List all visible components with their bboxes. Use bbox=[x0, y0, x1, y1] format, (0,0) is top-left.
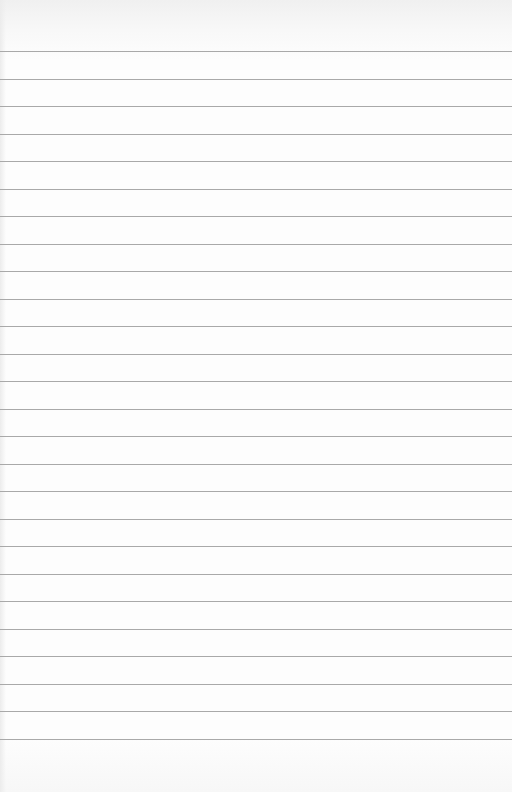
ruled-line bbox=[0, 491, 512, 492]
ruled-line bbox=[0, 601, 512, 602]
ruled-line bbox=[0, 134, 512, 135]
ruled-line bbox=[0, 271, 512, 272]
ruled-line bbox=[0, 106, 512, 107]
paper-edge-shadow bbox=[0, 0, 6, 792]
ruled-line bbox=[0, 519, 512, 520]
ruled-line bbox=[0, 409, 512, 410]
ruled-line bbox=[0, 189, 512, 190]
ruled-paper-sheet bbox=[0, 0, 512, 792]
ruled-line bbox=[0, 244, 512, 245]
ruled-line bbox=[0, 79, 512, 80]
ruled-line bbox=[0, 216, 512, 217]
ruled-line bbox=[0, 299, 512, 300]
ruled-line bbox=[0, 381, 512, 382]
ruled-line bbox=[0, 354, 512, 355]
ruled-line bbox=[0, 574, 512, 575]
ruled-line bbox=[0, 326, 512, 327]
ruled-line bbox=[0, 51, 512, 52]
ruled-line bbox=[0, 656, 512, 657]
ruled-line bbox=[0, 546, 512, 547]
ruled-line bbox=[0, 684, 512, 685]
ruled-line bbox=[0, 464, 512, 465]
ruled-line bbox=[0, 161, 512, 162]
ruled-line bbox=[0, 629, 512, 630]
ruled-line bbox=[0, 739, 512, 740]
ruled-line bbox=[0, 711, 512, 712]
ruled-line bbox=[0, 436, 512, 437]
